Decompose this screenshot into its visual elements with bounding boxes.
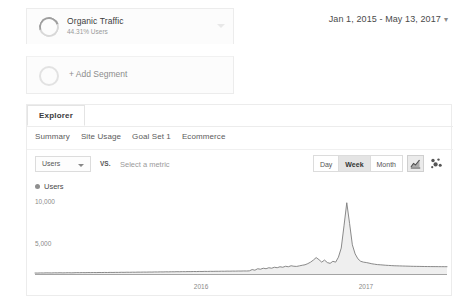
- subnav-item-summary[interactable]: Summary: [35, 132, 70, 141]
- chart-type-group: [407, 155, 445, 172]
- add-segment-button[interactable]: + Add Segment: [26, 56, 234, 94]
- date-range-label: Jan 1, 2015 - May 13, 2017: [329, 14, 441, 24]
- vs-label: VS.: [100, 160, 110, 167]
- chevron-down-icon[interactable]: [217, 24, 225, 28]
- segment-name: Organic Traffic: [67, 16, 124, 27]
- segment-text: Organic Traffic 44.31% Users: [67, 16, 124, 37]
- primary-metric-select[interactable]: Users: [35, 156, 91, 172]
- subnav-divider: [27, 149, 453, 150]
- subnav-item-site-usage[interactable]: Site Usage: [81, 132, 121, 141]
- segment-bar: Organic Traffic 44.31% Users + Add Segme…: [0, 0, 464, 98]
- explorer-subnav: Summary Site Usage Goal Set 1 Ecommerce: [35, 132, 225, 141]
- tab-explorer[interactable]: Explorer: [27, 105, 85, 126]
- x-axis-tick-2017: 2017: [359, 283, 373, 290]
- donut-progress-icon: [35, 13, 62, 40]
- tabstrip-divider: [27, 126, 453, 127]
- users-over-time-chart: Users 10,000 5,000 2016 2017: [27, 179, 453, 297]
- subnav-item-ecommerce[interactable]: Ecommerce: [182, 132, 226, 141]
- line-chart-icon[interactable]: [407, 155, 424, 172]
- subnav-item-goal-set-1[interactable]: Goal Set 1: [132, 132, 171, 141]
- chevron-down-icon: ▾: [444, 15, 448, 24]
- primary-metric-label: Users: [42, 160, 60, 167]
- x-axis-tick-2016: 2016: [194, 283, 208, 290]
- date-range-selector[interactable]: Jan 1, 2015 - May 13, 2017▾: [329, 14, 448, 24]
- chart-plot-svg[interactable]: [27, 179, 453, 297]
- motion-chart-icon[interactable]: [428, 155, 445, 172]
- add-segment-label: + Add Segment: [69, 69, 127, 79]
- granularity-toggle-group: Day Week Month: [313, 155, 403, 172]
- granularity-month[interactable]: Month: [370, 155, 403, 172]
- empty-circle-icon: [39, 66, 59, 86]
- explorer-card: Explorer Summary Site Usage Goal Set 1 E…: [26, 104, 452, 296]
- chevron-down-icon: [78, 164, 84, 167]
- segment-percentage: 44.31% Users: [67, 27, 124, 37]
- metric-selector-row: Users VS. Select a metric Day Week Month: [27, 152, 453, 180]
- granularity-day[interactable]: Day: [313, 155, 338, 172]
- granularity-week[interactable]: Week: [338, 155, 369, 172]
- secondary-metric-select[interactable]: Select a metric: [120, 160, 170, 169]
- segment-pill-organic-traffic[interactable]: Organic Traffic 44.31% Users: [26, 8, 234, 44]
